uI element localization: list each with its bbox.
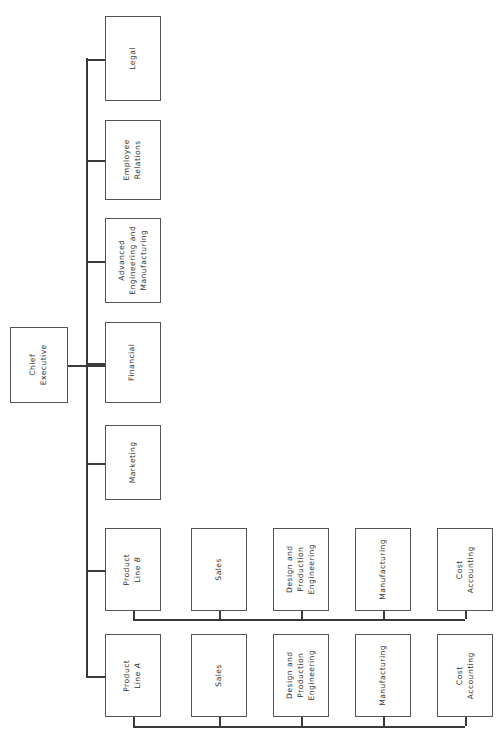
connector-root-stub xyxy=(68,365,105,367)
connector-staff-1 xyxy=(86,160,105,162)
connector-drop-0-1 xyxy=(301,611,303,619)
trunk-line xyxy=(86,58,88,676)
box-label: Cost Accounting xyxy=(454,546,476,593)
box-label: Product Line B xyxy=(122,554,144,586)
org-box-product-line-1-child-1[interactable]: Design and Production Engineering xyxy=(273,634,329,717)
connector-drop-0-3 xyxy=(465,611,467,619)
org-box-staff-2[interactable]: Advanced Engineering and Manufacturing xyxy=(105,218,161,303)
box-label: Financial xyxy=(128,344,139,381)
org-box-product-line-0-child-1[interactable]: Design and Production Engineering xyxy=(273,528,329,611)
connector-drop-parent-0 xyxy=(133,611,135,619)
org-box-product-line-0[interactable]: Product Line B xyxy=(105,528,161,611)
org-box-staff-4[interactable]: Marketing xyxy=(105,425,161,500)
connector-staff-4 xyxy=(86,463,105,465)
org-box-product-line-1-child-2[interactable]: Manufacturing xyxy=(355,634,411,717)
org-box-product-line-1-child-3[interactable]: Cost Accounting xyxy=(437,634,493,717)
connector-bus-0 xyxy=(133,619,465,621)
connector-product-line-0 xyxy=(86,570,105,572)
connector-drop-0-0 xyxy=(219,611,221,619)
connector-product-line-1 xyxy=(86,676,105,678)
box-label: Chief Executive xyxy=(28,344,50,385)
org-box-product-line-0-child-2[interactable]: Manufacturing xyxy=(355,528,411,611)
connector-drop-0-2 xyxy=(383,611,385,619)
org-chart-canvas: Chief ExecutiveLegalEmployee RelationsAd… xyxy=(0,0,500,737)
box-label: Legal xyxy=(128,47,139,70)
connector-bus-1 xyxy=(133,726,465,728)
box-label: Advanced Engineering and Manufacturing xyxy=(117,226,149,295)
org-box-product-line-1[interactable]: Product Line A xyxy=(105,634,161,717)
connector-drop-1-2 xyxy=(383,717,385,726)
org-box-product-line-0-child-3[interactable]: Cost Accounting xyxy=(437,528,493,611)
box-label: Product Line A xyxy=(122,660,144,692)
org-box-staff-1[interactable]: Employee Relations xyxy=(105,120,161,200)
box-label: Sales xyxy=(214,558,225,580)
box-label: Employee Relations xyxy=(122,139,144,180)
box-label: Manufacturing xyxy=(378,539,389,600)
connector-drop-1-3 xyxy=(465,717,467,726)
org-box-product-line-0-child-0[interactable]: Sales xyxy=(191,528,247,611)
org-box-product-line-1-child-0[interactable]: Sales xyxy=(191,634,247,717)
connector-staff-0 xyxy=(86,59,105,61)
box-label: Manufacturing xyxy=(378,645,389,706)
connector-drop-parent-1 xyxy=(133,717,135,726)
org-box-staff-0[interactable]: Legal xyxy=(105,16,161,101)
connector-staff-3 xyxy=(86,363,105,365)
org-box-staff-3[interactable]: Financial xyxy=(105,322,161,403)
org-box-chief-executive[interactable]: Chief Executive xyxy=(10,327,68,403)
connector-drop-1-0 xyxy=(219,717,221,726)
box-label: Marketing xyxy=(128,442,139,484)
box-label: Sales xyxy=(214,664,225,686)
box-label: Design and Production Engineering xyxy=(285,650,317,701)
connector-drop-1-1 xyxy=(301,717,303,726)
connector-staff-2 xyxy=(86,261,105,263)
box-label: Design and Production Engineering xyxy=(285,544,317,595)
box-label: Cost Accounting xyxy=(454,652,476,699)
